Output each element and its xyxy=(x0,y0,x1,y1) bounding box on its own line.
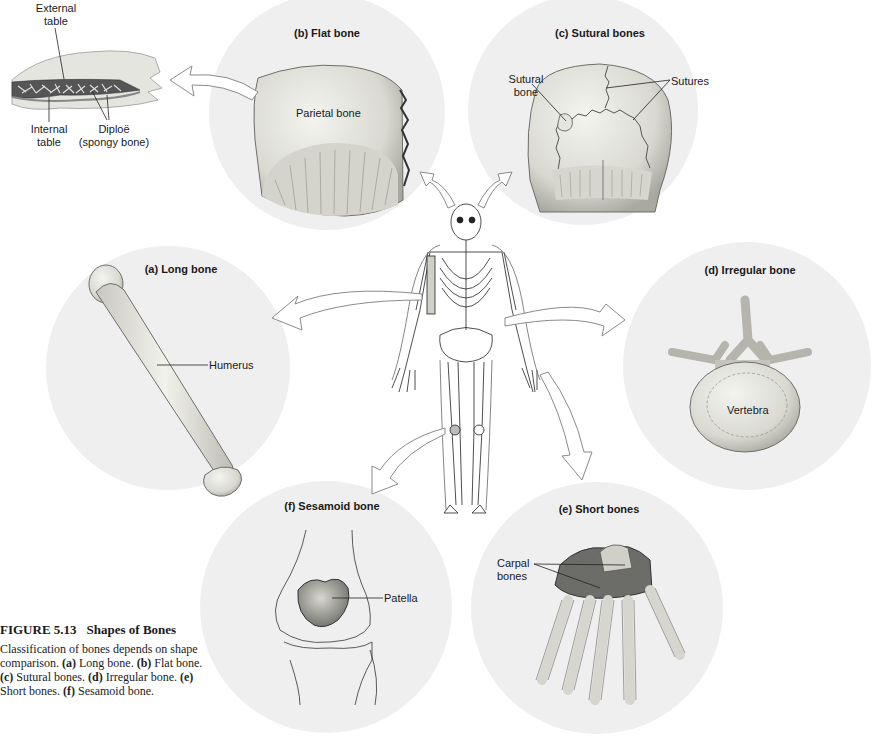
label-internal-table: Internal table xyxy=(27,123,71,149)
flat-bone-section-illustration xyxy=(12,28,162,122)
panel-title-sesamoid-bone: (f) Sesamoid bone xyxy=(282,500,382,512)
label-patella: Patella xyxy=(384,592,418,605)
caption-text-e: Short bones. xyxy=(0,684,60,698)
label-parietal-bone: Parietal bone xyxy=(296,107,361,120)
caption-text-b: Flat bone. xyxy=(154,656,202,670)
parietal-bone-illustration xyxy=(254,65,409,216)
panel-title-irregular-bone: (d) Irregular bone xyxy=(700,264,800,276)
figure-canvas: (b) Flat bone (c) Sutural bones (a) Long… xyxy=(0,0,872,741)
caption-text-a: Long bone. xyxy=(79,656,134,670)
caption-text-c: Sutural bones. xyxy=(16,670,85,684)
caption-key-d: (d) xyxy=(88,670,103,684)
figure-title-text: Shapes of Bones xyxy=(87,622,177,637)
label-diploe: Diploë (spongy bone) xyxy=(78,123,150,149)
caption-key-e: (e) xyxy=(180,670,193,684)
figure-title: FIGURE 5.13Shapes of Bones xyxy=(0,622,205,637)
figure-caption: FIGURE 5.13Shapes of Bones Classificatio… xyxy=(0,622,205,698)
label-carpal-bones: Carpal bones xyxy=(497,557,537,583)
caption-key-c: (c) xyxy=(0,670,13,684)
caption-text-f: Sesamoid bone. xyxy=(78,684,154,698)
label-humerus: Humerus xyxy=(209,359,254,372)
arrow-to-flat-bone xyxy=(420,172,455,208)
label-sutures: Sutures xyxy=(671,75,709,88)
panel-title-sutural-bones: (c) Sutural bones xyxy=(555,27,645,39)
arrow-to-sesamoid xyxy=(372,428,445,494)
label-sutural-bone: Sutural bone xyxy=(505,73,547,99)
figure-caption-body: Classification of bones depends on shape… xyxy=(0,642,205,698)
figure-number: FIGURE 5.13 xyxy=(0,622,77,637)
caption-key-a: (a) xyxy=(62,656,76,670)
panel-title-short-bones: (e) Short bones xyxy=(556,503,642,515)
label-external-table: External table xyxy=(31,2,81,28)
arrow-to-irregular xyxy=(505,304,625,336)
arrow-to-short xyxy=(540,372,592,480)
caption-key-b: (b) xyxy=(137,656,152,670)
skeleton-illustration xyxy=(392,204,540,513)
panel-title-long-bone: (a) Long bone xyxy=(142,263,220,275)
label-vertebra: Vertebra xyxy=(727,404,769,417)
caption-text-d: Irregular bone. xyxy=(106,670,177,684)
caption-key-f: (f) xyxy=(63,684,75,698)
arrow-to-long-bone xyxy=(272,291,422,330)
panel-title-flat-bone: (b) Flat bone xyxy=(290,27,364,39)
skull-posterior-illustration xyxy=(528,64,672,212)
